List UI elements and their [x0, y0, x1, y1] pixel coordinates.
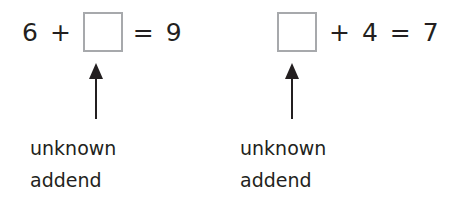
- label-line-addend: addend: [240, 164, 326, 196]
- up-arrow-icon: [285, 63, 299, 119]
- label-line-addend: addend: [30, 164, 116, 196]
- sum: 7: [423, 18, 439, 47]
- plus-sign: +: [50, 18, 71, 47]
- unknown-addend-box[interactable]: [277, 12, 317, 52]
- equation-2: + 4 = 7: [277, 12, 439, 52]
- equals-sign: =: [133, 18, 154, 47]
- unknown-addend-box[interactable]: [83, 12, 123, 52]
- equals-sign: =: [390, 18, 411, 47]
- addend-known: 4: [362, 18, 378, 47]
- plus-sign: +: [329, 18, 350, 47]
- addend-known: 6: [22, 18, 38, 47]
- equation-1: 6 + = 9: [22, 12, 182, 52]
- label-2: unknown addend: [240, 132, 326, 196]
- label-line-unknown: unknown: [30, 132, 116, 164]
- up-arrow-icon: [89, 63, 103, 119]
- sum: 9: [166, 18, 182, 47]
- label-1: unknown addend: [30, 132, 116, 196]
- label-line-unknown: unknown: [240, 132, 326, 164]
